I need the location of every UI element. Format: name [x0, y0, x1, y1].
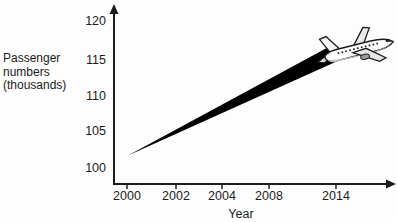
x-axis-title: Year: [211, 207, 271, 221]
y-tick-label-120: 120: [66, 14, 106, 28]
trend-wedge-line: [128, 47, 337, 156]
axis-arrow-right-icon: [386, 180, 396, 189]
y-axis-title-line-3: (thousands): [3, 79, 66, 93]
y-axis-title: Passenger numbers (thousands): [3, 52, 66, 93]
x-tick-label-2004: 2004: [200, 189, 244, 203]
y-axis-title-line-2: numbers: [3, 66, 66, 80]
x-tick-label-2000: 2000: [105, 189, 149, 203]
y-tick-label-115: 115: [66, 53, 106, 67]
y-axis-title-line-1: Passenger: [3, 52, 66, 66]
chart-figure: 120 115 110 105 100 2000 2002 2004 2008 …: [0, 0, 397, 222]
x-tick-label-2008: 2008: [247, 189, 291, 203]
airplane-icon: [312, 21, 397, 76]
y-tick-label-110: 110: [66, 89, 106, 103]
x-tick-label-2014: 2014: [314, 189, 358, 203]
x-tick-label-2002: 2002: [154, 189, 198, 203]
axis-arrow-up-icon: [110, 4, 119, 14]
y-tick-label-100: 100: [66, 161, 106, 175]
y-tick-label-105: 105: [66, 124, 106, 138]
